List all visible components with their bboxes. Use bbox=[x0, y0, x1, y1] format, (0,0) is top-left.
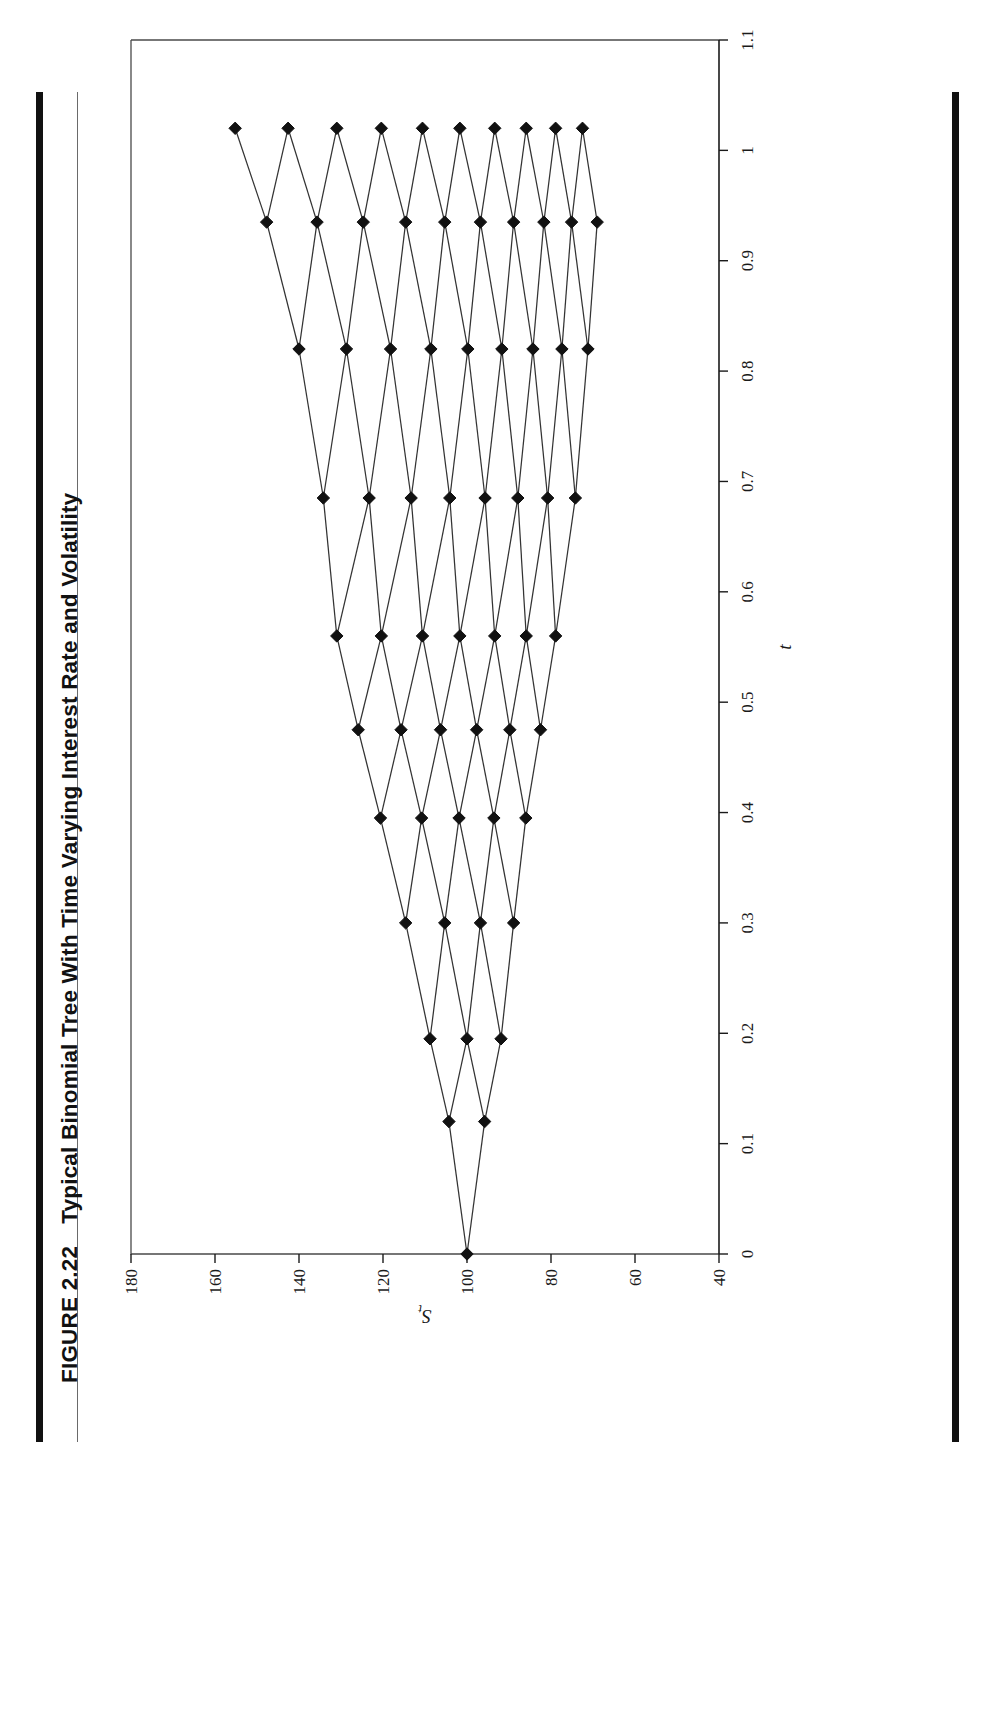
tree-edge bbox=[381, 498, 411, 636]
y-tick-label: 120 bbox=[374, 1269, 393, 1295]
tree-edge bbox=[369, 498, 381, 636]
tree-edge bbox=[346, 349, 369, 498]
tree-edge bbox=[502, 349, 518, 498]
figure-page: FIGURE 2.22Typical Binomial Tree With Ti… bbox=[0, 0, 996, 1729]
tree-edge bbox=[480, 222, 501, 349]
tree-node bbox=[229, 122, 241, 134]
tree-edge bbox=[583, 128, 598, 222]
y-axis: 406080100120140160180 bbox=[122, 1254, 729, 1295]
tree-node bbox=[549, 122, 561, 134]
tree-edge bbox=[514, 222, 533, 349]
tree-edge bbox=[288, 128, 317, 222]
tree-node bbox=[462, 343, 474, 355]
x-tick-label: 0.1 bbox=[738, 1133, 757, 1154]
x-tick-label: 0.3 bbox=[738, 912, 757, 933]
tree-edges bbox=[235, 128, 597, 1254]
tree-node bbox=[439, 917, 451, 929]
tree-edge bbox=[363, 128, 381, 222]
tree-edge bbox=[526, 636, 540, 730]
tree-node bbox=[340, 343, 352, 355]
tree-edge bbox=[445, 128, 460, 222]
tree-edge bbox=[459, 730, 477, 818]
tree-node bbox=[496, 343, 508, 355]
tree-edge bbox=[337, 498, 369, 636]
tree-edge bbox=[533, 222, 544, 349]
tree-edge bbox=[358, 730, 380, 818]
tree-node bbox=[582, 343, 594, 355]
tree-edge bbox=[411, 349, 431, 498]
tree-edge bbox=[477, 636, 495, 730]
tree-edge bbox=[459, 818, 480, 923]
tree-edge bbox=[380, 730, 401, 818]
y-tick-label: 140 bbox=[290, 1269, 309, 1295]
tree-node bbox=[317, 492, 329, 504]
tree-edge bbox=[467, 1122, 485, 1254]
tree-node bbox=[488, 812, 500, 824]
tree-edge bbox=[510, 636, 526, 730]
tree-node bbox=[520, 122, 532, 134]
tree-edge bbox=[337, 128, 363, 222]
tree-edge bbox=[495, 636, 510, 730]
tree-edge bbox=[391, 222, 406, 349]
tree-node bbox=[461, 1248, 473, 1260]
tree-node bbox=[399, 917, 411, 929]
tree-edge bbox=[562, 349, 575, 498]
y-tick-label: 40 bbox=[710, 1269, 729, 1286]
tree-edge bbox=[514, 818, 526, 923]
x-tick-label: 0.6 bbox=[738, 581, 757, 602]
tree-node bbox=[374, 812, 386, 824]
tree-edge bbox=[477, 730, 494, 818]
tree-edge bbox=[495, 498, 518, 636]
tree-edge bbox=[526, 128, 544, 222]
tree-node bbox=[591, 216, 603, 228]
tree-edge bbox=[363, 222, 390, 349]
tree-node bbox=[415, 812, 427, 824]
tree-node bbox=[489, 122, 501, 134]
tree-node bbox=[565, 216, 577, 228]
figure-caption: FIGURE 2.22Typical Binomial Tree With Ti… bbox=[57, 3, 83, 1383]
tree-edge bbox=[468, 222, 481, 349]
tree-node bbox=[444, 492, 456, 504]
tree-edge bbox=[467, 1039, 485, 1122]
tree-edge bbox=[422, 636, 440, 730]
y-tick-label: 160 bbox=[206, 1269, 225, 1295]
x-tick-label: 0.4 bbox=[738, 801, 757, 823]
tree-node bbox=[512, 492, 524, 504]
tree-edge bbox=[449, 1122, 467, 1254]
tree-edge bbox=[422, 128, 444, 222]
tree-node bbox=[461, 1033, 473, 1045]
tree-edge bbox=[406, 222, 431, 349]
tree-node bbox=[549, 630, 561, 642]
tree-node bbox=[282, 122, 294, 134]
tree-edge bbox=[556, 128, 572, 222]
tree-edge bbox=[572, 128, 583, 222]
tree-node bbox=[556, 343, 568, 355]
x-tick-label: 0.9 bbox=[738, 250, 757, 271]
tree-edge bbox=[299, 349, 323, 498]
x-axis: 00.10.20.30.40.50.60.70.80.911.1 bbox=[719, 29, 757, 1258]
tree-edge bbox=[548, 498, 556, 636]
tree-edge bbox=[460, 128, 481, 222]
y-tick-label: 60 bbox=[626, 1269, 645, 1286]
page-rule-right bbox=[952, 92, 959, 1442]
x-tick-label: 0.7 bbox=[738, 470, 757, 492]
tree-edge bbox=[510, 730, 526, 818]
tree-node bbox=[416, 122, 428, 134]
tree-edge bbox=[267, 222, 299, 349]
tree-edge bbox=[556, 498, 576, 636]
tree-node bbox=[363, 492, 375, 504]
tree-edge bbox=[544, 128, 556, 222]
tree-node bbox=[520, 630, 532, 642]
tree-edge bbox=[381, 636, 401, 730]
tree-edge bbox=[460, 498, 485, 636]
tree-node bbox=[357, 216, 369, 228]
tree-edge bbox=[299, 222, 317, 349]
tree-edge bbox=[406, 818, 422, 923]
tree-edge bbox=[430, 923, 445, 1039]
tree-edge bbox=[450, 498, 460, 636]
tree-node bbox=[434, 724, 446, 736]
tree-edge bbox=[422, 730, 441, 818]
tree-edge bbox=[572, 222, 588, 349]
tree-node bbox=[454, 122, 466, 134]
x-tick-label: 0.2 bbox=[738, 1023, 757, 1044]
